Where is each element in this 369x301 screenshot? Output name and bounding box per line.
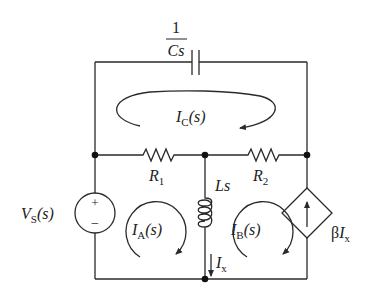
svg-text:1: 1: [172, 19, 180, 36]
voltage-source: + −: [75, 193, 115, 233]
r1-label: R1: [148, 167, 164, 187]
svg-text:Cs: Cs: [168, 42, 185, 59]
inductor-label: Ls: [214, 177, 230, 194]
resistor-r1: [95, 149, 205, 161]
r2-label: R2: [252, 167, 268, 187]
mesh-label-ia: IA(s): [131, 221, 162, 241]
junction-nodes: [92, 152, 311, 283]
minus-sign: −: [91, 216, 99, 231]
inductor-symbol: [198, 155, 212, 279]
resistor-r2: [205, 149, 307, 161]
circuit-svg: + − 1 Cs IC(s) R1 R2 Ls VS(s) IA(s) IB(s…: [0, 0, 369, 301]
circuit-diagram: + − 1 Cs IC(s) R1 R2 Ls VS(s) IA(s) IB(s…: [0, 0, 369, 301]
vs-label: VS(s): [21, 205, 54, 225]
mesh-label-ib: IB(s): [230, 221, 261, 241]
plus-sign: +: [91, 195, 98, 210]
capacitor-symbol: [192, 50, 199, 75]
capacitor-label: 1 Cs: [166, 19, 187, 59]
dependent-source-label: βIx: [331, 224, 350, 244]
mesh-label-ic: IC(s): [175, 108, 206, 128]
dependent-current-source: [282, 188, 332, 238]
ix-label: Ix: [215, 254, 227, 274]
